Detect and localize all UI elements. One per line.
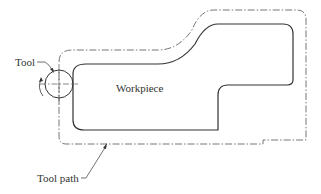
- workpiece-label: Workpiece: [116, 82, 163, 94]
- workpiece-outline: [73, 24, 293, 130]
- tool-path-contour: [59, 10, 306, 144]
- tool-leader-arrow-icon: [37, 62, 54, 73]
- rotation-arrow-icon: [39, 77, 43, 96]
- tool-path-label: Tool path: [37, 172, 79, 184]
- tool-path-leader-arrow-icon: [81, 143, 107, 178]
- tool-label: Tool: [15, 56, 35, 68]
- diagram-canvas: [0, 0, 321, 194]
